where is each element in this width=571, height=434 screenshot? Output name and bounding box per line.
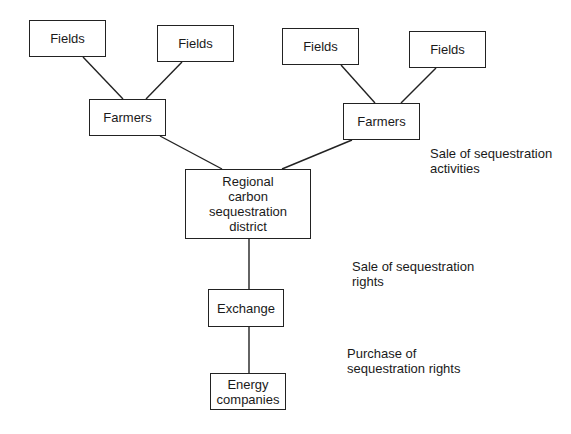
fields-box-4: Fields — [409, 31, 486, 68]
link-fields2-farmersleft — [146, 62, 182, 99]
link-fields3-farmersright — [341, 65, 375, 103]
exchange-label: Exchange — [217, 301, 275, 316]
fields-label: Fields — [303, 39, 338, 54]
annotation-purchase-rights: Purchase of sequestration rights — [347, 346, 472, 376]
link-farmersleft-district — [160, 136, 222, 169]
district-label: Regional carbon sequestration district — [202, 174, 294, 234]
fields-label: Fields — [430, 42, 465, 57]
energy-companies-label: Energy companies — [217, 377, 280, 407]
farmers-box-left: Farmers — [89, 99, 166, 136]
farmers-box-right: Farmers — [343, 103, 420, 140]
energy-companies-box: Energy companies — [210, 373, 286, 410]
annotation-sale-activities: Sale of sequestration activities — [430, 146, 555, 176]
link-fields4-farmersright — [401, 68, 436, 103]
fields-label: Fields — [50, 31, 85, 46]
farmers-label: Farmers — [357, 114, 405, 129]
fields-label: Fields — [178, 36, 213, 51]
link-farmersright-district — [282, 140, 352, 169]
exchange-box: Exchange — [208, 289, 284, 327]
farmers-label: Farmers — [103, 110, 151, 125]
fields-box-1: Fields — [29, 20, 106, 57]
link-fields1-farmersleft — [83, 57, 123, 99]
fields-box-2: Fields — [157, 25, 234, 62]
annotation-sale-rights: Sale of sequestration rights — [352, 259, 477, 289]
fields-box-3: Fields — [282, 28, 359, 65]
district-box: Regional carbon sequestration district — [185, 169, 311, 239]
